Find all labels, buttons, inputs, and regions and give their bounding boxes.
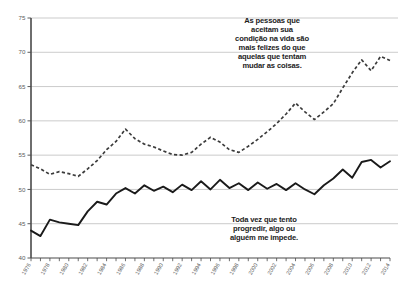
- svg-text:40: 40: [19, 254, 26, 261]
- svg-text:50: 50: [19, 186, 26, 193]
- line-chart: 4045505560657075 19761978198019821984198…: [0, 0, 404, 294]
- chart-background: [0, 0, 404, 294]
- svg-text:45: 45: [19, 220, 26, 227]
- svg-text:75: 75: [19, 14, 26, 21]
- annotation-top: As pessoas que aceitam sua condição na v…: [218, 17, 326, 71]
- chart-container: 4045505560657075 19761978198019821984198…: [0, 0, 404, 294]
- svg-text:60: 60: [19, 117, 26, 124]
- svg-text:55: 55: [19, 151, 26, 158]
- svg-text:65: 65: [19, 83, 26, 90]
- svg-text:70: 70: [19, 48, 26, 55]
- annotation-bottom: Toda vez que tento progredir, algo ou al…: [196, 216, 332, 243]
